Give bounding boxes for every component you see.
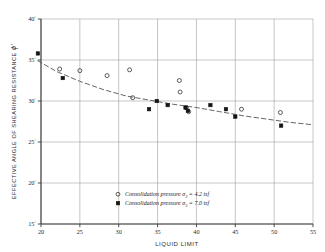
x-tick-label: 55 xyxy=(310,228,316,235)
data-point-filled-circle xyxy=(155,99,158,102)
data-point-filled-circle xyxy=(279,124,282,127)
x-axis-title: LIQUID LIMIT xyxy=(155,241,199,247)
chart-legend: Consolidation pressure σ3 = 4.2 tsfConso… xyxy=(116,191,210,208)
scatter-plot: 202530354045505540°35°30°25°20°15° LIQUI… xyxy=(0,0,325,252)
x-tick-label: 25 xyxy=(77,228,83,235)
legend-marker-filled-circle xyxy=(116,202,119,205)
data-point-filled-circle xyxy=(209,103,212,106)
x-tick-label: 45 xyxy=(232,228,238,235)
data-point-filled-circle xyxy=(224,108,227,111)
data-point-filled-circle xyxy=(61,76,64,79)
x-tick-label: 30 xyxy=(116,228,122,235)
data-point-filled-circle xyxy=(36,52,39,55)
data-point-filled-circle xyxy=(147,108,150,111)
plot-background xyxy=(0,0,325,252)
data-point-filled-circle xyxy=(234,115,237,118)
data-point-filled-circle xyxy=(186,109,189,112)
chart-figure: 202530354045505540°35°30°25°20°15° LIQUI… xyxy=(0,0,325,252)
x-tick-label: 20 xyxy=(38,228,44,235)
data-point-filled-circle xyxy=(184,106,187,109)
data-point-filled-circle xyxy=(166,103,169,106)
x-tick-label: 40 xyxy=(193,228,199,235)
x-tick-label: 50 xyxy=(271,228,277,235)
x-tick-label: 35 xyxy=(154,228,160,235)
y-axis-title: EFFECTIVE ANGLE OF SHEARING RESISTANCE ϕ… xyxy=(10,44,18,199)
